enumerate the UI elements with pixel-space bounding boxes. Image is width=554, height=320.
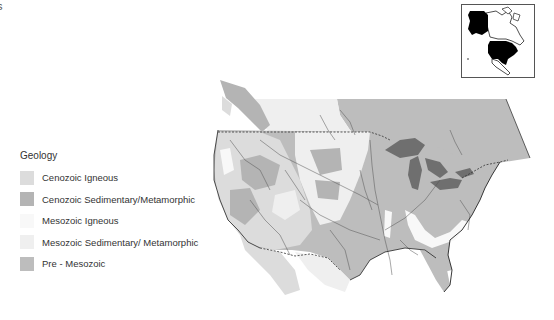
legend-item-mesozoic-sedimentary: Mesozoic Sedimentary/ Metamorphic — [20, 235, 198, 250]
panel-label: s — [0, 0, 3, 12]
legend-swatch — [20, 235, 34, 249]
geology-map — [200, 70, 554, 314]
legend-swatch — [20, 257, 34, 271]
legend-label: Mesozoic Sedimentary/ Metamorphic — [42, 237, 198, 248]
us-geology-map-graphic — [200, 70, 554, 310]
legend-swatch — [20, 214, 34, 228]
legend-item-pre-mesozoic: Pre - Mesozoic — [20, 256, 198, 271]
legend-label: Pre - Mesozoic — [42, 258, 105, 269]
legend-title: Geology — [20, 150, 198, 161]
legend-item-cenozoic-igneous: Cenozoic Igneous — [20, 170, 198, 185]
legend-label: Cenozoic Igneous — [42, 172, 118, 183]
legend-item-mesozoic-igneous: Mesozoic Igneous — [20, 213, 198, 228]
legend-label: Mesozoic Igneous — [42, 215, 119, 226]
legend-swatch — [20, 192, 34, 206]
legend-item-cenozoic-sedimentary: Cenozoic Sedimentary/Metamorphic — [20, 192, 198, 207]
north-america-outline-icon — [462, 5, 534, 77]
legend: Geology Cenozoic Igneous Cenozoic Sedime… — [20, 150, 198, 278]
legend-swatch — [20, 171, 34, 185]
inset-locator-map — [461, 4, 535, 78]
legend-label: Cenozoic Sedimentary/Metamorphic — [42, 194, 195, 205]
